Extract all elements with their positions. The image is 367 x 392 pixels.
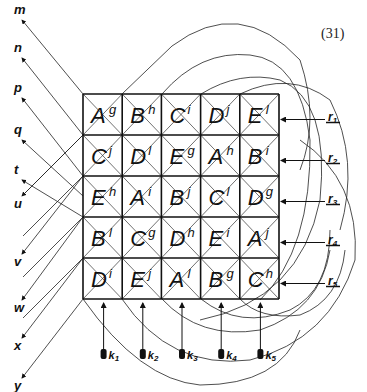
grid-cell: Dg [240,176,279,217]
cell-letter: A [207,144,224,169]
grid-cell: Cg [122,217,161,258]
label-k2: k2 [148,349,159,363]
label-n: n [14,40,22,55]
cell-letter: E [169,144,184,169]
line-p [22,98,83,176]
arc-6 [162,250,330,332]
line-y [22,299,83,378]
grid-cell: Ai [122,176,161,217]
cell-letter: D [169,226,185,251]
cell-superscript: g [148,225,156,240]
grid-cell: Eg [161,135,200,176]
latin-square-diagram: AgBhCiDjElCjDlEgAhBiEhAiBjClDgBlCgDhEiAj… [0,0,367,392]
grid-cell: Bl [83,217,122,258]
source-k4 [218,349,224,359]
cell-letter: A [128,185,145,210]
label-q: q [14,122,22,137]
label-v: v [14,254,22,269]
label-k4: k4 [226,349,237,363]
label-p: p [13,80,22,95]
cell-letter: B [209,267,224,292]
cell-letter: A [246,226,263,251]
cell-letter: D [91,267,107,292]
line-m [22,20,83,94]
grid-cell: Dj [201,94,240,135]
cell-superscript: h [148,102,155,117]
cell-letter: D [248,185,264,210]
cell-superscript: g [109,102,117,117]
grid-cell: Bh [122,94,161,135]
grid-cell: Dh [161,217,200,258]
cell-letter: C [209,185,225,210]
cell-superscript: h [266,266,273,281]
label-y: y [13,378,22,392]
cell-letter: E [130,267,145,292]
cell-letter: B [248,144,263,169]
cell-superscript: h [187,225,194,240]
cell-letter: E [248,103,263,128]
arc-5 [122,140,355,361]
label-m: m [14,2,26,17]
grid-cell: Bg [201,258,240,299]
cell-letter: B [169,185,184,210]
label-u: u [14,196,22,211]
cell-superscript: h [227,143,234,158]
line-v [22,176,83,254]
cell-superscript: h [109,184,116,199]
cell-letter: A [89,103,106,128]
grid-cell: Dl [122,135,161,176]
grid: AgBhCiDjElCjDlEgAhBiEhAiBjClDgBlCgDhEiAj… [83,94,279,299]
source-k5 [257,349,263,359]
line-x [22,258,83,338]
cell-superscript: g [227,266,235,281]
grid-cell: Aj [240,217,279,258]
grid-cell: Ei [201,217,240,258]
grid-cell: Di [83,258,122,299]
arc-9 [83,299,300,385]
grid-cell: Bj [161,176,200,217]
grid-cell: Cj [83,135,122,176]
cell-letter: D [130,144,146,169]
cell-letter: E [209,226,224,251]
cell-letter: C [169,103,185,128]
grid-cell: El [240,94,279,135]
label-t: t [14,162,19,177]
label-k5: k5 [265,349,276,363]
cell-superscript: g [266,184,274,199]
grid-cell: Ci [161,94,200,135]
source-k1 [101,349,107,359]
source-k2 [140,349,146,359]
cell-letter: B [130,103,145,128]
grid-cell: Cl [201,176,240,217]
grid-cell: Ej [122,258,161,299]
line-w [22,217,83,300]
label-x: x [13,338,22,353]
label-k1: k1 [109,349,120,363]
grid-cell: Bi [240,135,279,176]
arc-2 [162,54,310,300]
cell-letter: C [91,144,107,169]
cell-letter: B [91,226,106,251]
source-k3 [179,349,185,359]
grid-cell: Ch [240,258,279,299]
cell-letter: E [91,185,106,210]
grid-cell: Al [161,258,200,299]
grid-cell: Eh [83,176,122,217]
line-n [22,58,83,135]
cell-letter: C [130,226,146,251]
cell-letter: D [209,103,225,128]
cell-letter: A [167,267,184,292]
label-k3: k3 [187,349,198,363]
grid-cell: Ah [201,135,240,176]
grid-cell: Ag [83,94,122,135]
label-w: w [14,300,25,315]
cell-superscript: g [187,143,195,158]
cell-letter: C [248,267,264,292]
